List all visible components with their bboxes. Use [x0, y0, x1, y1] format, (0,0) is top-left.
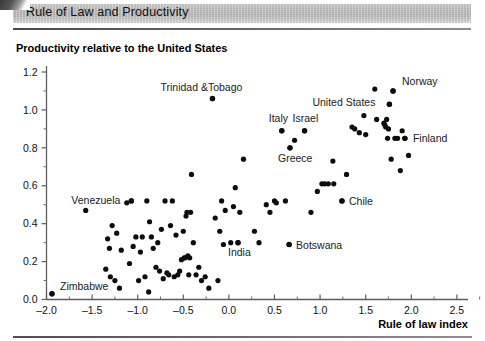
x-tick-label: –0.5 [173, 304, 194, 316]
data-point [161, 276, 166, 281]
data-point [223, 208, 228, 213]
data-point [127, 261, 132, 266]
data-point [357, 130, 362, 135]
data-point [389, 157, 394, 162]
data-point [186, 272, 191, 277]
data-point [147, 219, 152, 224]
data-point [177, 268, 182, 273]
data-point [274, 200, 279, 205]
data-point [119, 248, 124, 253]
data-point [283, 198, 288, 203]
data-point-venezuela [129, 198, 134, 203]
y-tick-label: 0.2 [23, 255, 38, 267]
data-point [219, 198, 224, 203]
x-tick-label: 1.5 [358, 304, 373, 316]
data-point-israel [302, 128, 307, 133]
data-point [83, 208, 88, 213]
x-tick-label: 2.5 [450, 304, 465, 316]
data-point-labels: ZimbabweVenezuelaTrinidad &TobagoIndiaBo… [60, 75, 448, 292]
data-point [114, 231, 119, 236]
point-label-india: India [228, 246, 251, 258]
data-point [206, 286, 211, 291]
point-label-trinidad-tobago: Trinidad &Tobago [160, 81, 242, 93]
x-tick-label: –1.0 [127, 304, 148, 316]
data-point [159, 227, 164, 232]
data-point [344, 172, 349, 177]
data-point [292, 138, 297, 143]
data-point-botswana [286, 242, 291, 247]
data-point [361, 113, 366, 118]
data-point [395, 136, 400, 141]
data-point [142, 274, 147, 279]
data-point [267, 210, 272, 215]
point-label-norway: Norway [402, 75, 438, 87]
data-point [105, 236, 110, 241]
data-point [215, 278, 220, 283]
data-point [326, 181, 331, 186]
x-tick-label: –2.0 [36, 304, 57, 316]
data-point [103, 267, 108, 272]
data-point [133, 234, 138, 239]
data-point [157, 268, 162, 273]
point-label-italy: Italy [269, 112, 289, 124]
data-point [124, 200, 129, 205]
data-point [173, 232, 178, 237]
data-point [151, 246, 156, 251]
data-point [188, 210, 193, 215]
data-point [252, 229, 257, 234]
data-point [264, 202, 269, 207]
data-point [372, 86, 377, 91]
data-point-chile [339, 198, 344, 203]
data-point [331, 181, 336, 186]
data-point [136, 278, 141, 283]
x-tick-label: 2.0 [404, 304, 419, 316]
point-label-greece: Greece [278, 152, 313, 164]
data-point [166, 272, 171, 277]
data-point [308, 210, 313, 215]
y-tick-label: 0.4 [23, 217, 38, 229]
data-point-india [235, 240, 240, 245]
data-point [181, 229, 186, 234]
point-label-chile: Chile [349, 195, 373, 207]
data-points [49, 86, 411, 296]
axis-lines [47, 66, 469, 300]
data-point [221, 242, 226, 247]
data-point [140, 234, 145, 239]
data-point-united-states [387, 102, 392, 107]
data-point [131, 244, 136, 249]
data-point [112, 278, 117, 283]
x-tick-label: 1.0 [313, 304, 328, 316]
data-point [330, 159, 335, 164]
y-tick-label: 0.0 [23, 293, 38, 305]
data-point [196, 265, 201, 270]
x-tick-label: 0.0 [222, 304, 237, 316]
data-point [189, 172, 194, 177]
data-point [217, 229, 222, 234]
data-point [315, 189, 320, 194]
data-point [228, 240, 233, 245]
axis-ticks [42, 72, 480, 300]
data-point [117, 286, 122, 291]
data-point [162, 198, 167, 203]
data-point [199, 278, 204, 283]
data-point [108, 274, 113, 279]
data-point [363, 132, 368, 137]
point-label-israel: Israel [293, 112, 319, 124]
data-point [146, 289, 151, 294]
data-point [187, 255, 192, 260]
data-point [231, 204, 236, 209]
data-point [233, 185, 238, 190]
point-label-zimbabwe: Zimbabwe [60, 280, 109, 292]
data-point [203, 274, 208, 279]
data-point [400, 128, 405, 133]
point-label-botswana: Botswana [296, 239, 342, 251]
data-point [237, 210, 242, 215]
point-label-united-states: United States [312, 96, 375, 108]
data-point [385, 136, 390, 141]
data-point [144, 198, 149, 203]
data-point [107, 246, 112, 251]
y-tick-label: 0.8 [23, 142, 38, 154]
data-point-trinidad-tobago [210, 96, 215, 101]
data-point-greece [287, 145, 292, 150]
data-point [149, 234, 154, 239]
